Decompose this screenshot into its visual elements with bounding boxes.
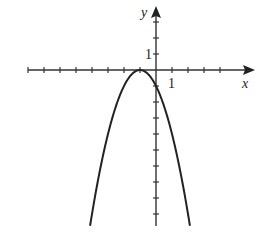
x-tick-label: 1: [168, 76, 175, 91]
x-axis-label: x: [241, 76, 249, 91]
parabola-curve: [90, 70, 190, 226]
y-tick-label: 1: [145, 47, 152, 62]
parabola-graph: 1 1 x y: [0, 0, 271, 234]
y-axis-label: y: [139, 5, 148, 20]
y-axis: [151, 6, 161, 226]
